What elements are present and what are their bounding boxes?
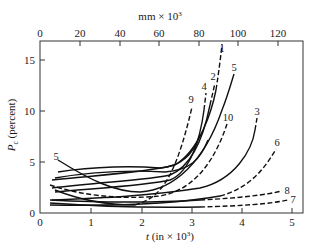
curve-3-dashed: [255, 118, 257, 130]
curve-8-dashed: [200, 191, 282, 200]
curve-label-2: 2: [210, 71, 215, 82]
plot-frame: [40, 41, 303, 213]
x-tick-label: 2: [139, 216, 145, 228]
x2-tick-label: 40: [115, 27, 127, 39]
y-tick-label: 0: [30, 207, 36, 219]
curve-label-10: 10: [223, 112, 234, 123]
curve-label-7: 7: [290, 194, 295, 205]
x-tick-label: 3: [189, 216, 195, 228]
y-axis: 0 5 10 15 Pc (percent): [5, 54, 45, 219]
curve-label-8: 8: [284, 185, 289, 196]
x2-tick-label: 20: [75, 27, 87, 39]
curve-4-dashed: [204, 93, 206, 110]
x2-tick-label: 0: [37, 27, 43, 39]
y-axis-title: Pc (percent): [5, 98, 20, 152]
curve-6-dashed: [220, 149, 276, 196]
curve-2-dashed: [210, 83, 215, 105]
x2-tick-label: 60: [154, 27, 166, 39]
y-tick-label: 5: [30, 156, 36, 168]
y-tick-label: 10: [24, 105, 36, 117]
x-tick-label: 4: [239, 216, 245, 228]
curve-7-dashed: [200, 200, 288, 207]
x-axis-title: t (in × 103): [146, 230, 194, 243]
curve-label-3: 3: [254, 106, 259, 117]
curves: [50, 44, 288, 207]
curve-label-5: 5: [231, 62, 236, 73]
x-tick-label: 5: [289, 216, 295, 228]
curve-label-1: 1: [219, 43, 224, 54]
x2-tick-label: 100: [230, 27, 247, 39]
curve-label-4: 4: [201, 81, 207, 92]
curve-label-9: 9: [188, 94, 193, 105]
y-tick-label: 15: [24, 54, 36, 66]
x2-axis-title: mm × 103: [138, 10, 182, 22]
x-tick-label: 1: [88, 216, 94, 228]
chart-canvas: 0 1 2 3 4 5 t (in × 103) 0 20 40 60 80 1…: [0, 0, 312, 252]
curve-label-5-left: 5: [53, 151, 58, 162]
x-tick-label: 0: [37, 216, 43, 228]
curve-label-6: 6: [274, 137, 279, 148]
x2-tick-label: 80: [194, 27, 206, 39]
x2-tick-label: 120: [270, 27, 287, 39]
